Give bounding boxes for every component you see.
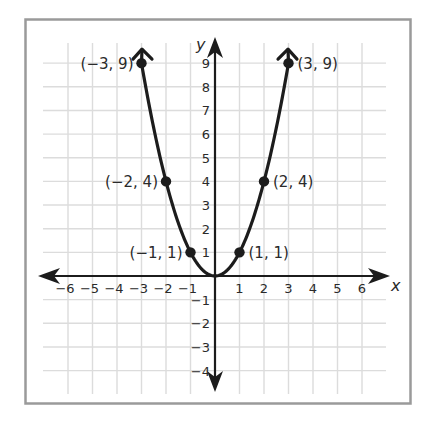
point-label: (−3, 9)	[81, 55, 134, 73]
x-tick-label: 4	[309, 281, 317, 296]
chart-canvas: x y −6−5−4−3−2−1123456987654321−1−2−3−4 …	[0, 0, 430, 426]
chart-frame	[26, 20, 411, 404]
y-tick-label: 7	[202, 103, 210, 118]
y-tick-label: −2	[191, 316, 210, 331]
x-tick-label: 5	[333, 281, 341, 296]
x-axis-label: x	[390, 276, 401, 295]
point-label: (3, 9)	[298, 55, 338, 73]
y-tick-label: 2	[202, 222, 210, 237]
y-axis-label: y	[195, 35, 206, 54]
data-point	[136, 58, 146, 68]
point-label: (−1, 1)	[130, 244, 183, 262]
y-tick-label: −4	[191, 364, 210, 379]
x-tick-label: −2	[153, 281, 172, 296]
data-point	[185, 247, 195, 257]
y-tick-label: −3	[191, 340, 210, 355]
y-tick-label: 1	[202, 245, 210, 260]
y-tick-label: 3	[202, 198, 210, 213]
data-point	[234, 247, 244, 257]
data-point	[161, 176, 171, 186]
point-label: (1, 1)	[249, 244, 289, 262]
data-point	[283, 58, 293, 68]
y-tick-label: 9	[202, 56, 210, 71]
y-tick-label: −1	[191, 293, 210, 308]
x-tick-label: 2	[260, 281, 268, 296]
x-tick-label: 6	[358, 281, 366, 296]
x-tick-label: −3	[129, 281, 148, 296]
point-label: (−2, 4)	[105, 173, 158, 191]
parabola-chart: x y −6−5−4−3−2−1123456987654321−1−2−3−4 …	[0, 0, 430, 426]
y-tick-label: 6	[202, 127, 210, 142]
x-tick-label: 1	[235, 281, 243, 296]
data-point	[259, 176, 269, 186]
point-label: (2, 4)	[273, 173, 313, 191]
y-tick-label: 8	[202, 80, 210, 95]
y-tick-label: 4	[202, 174, 210, 189]
x-tick-label: 3	[284, 281, 292, 296]
x-tick-label: −6	[55, 281, 74, 296]
y-tick-label: 5	[202, 151, 210, 166]
x-tick-label: −4	[104, 281, 123, 296]
x-tick-label: −5	[80, 281, 99, 296]
